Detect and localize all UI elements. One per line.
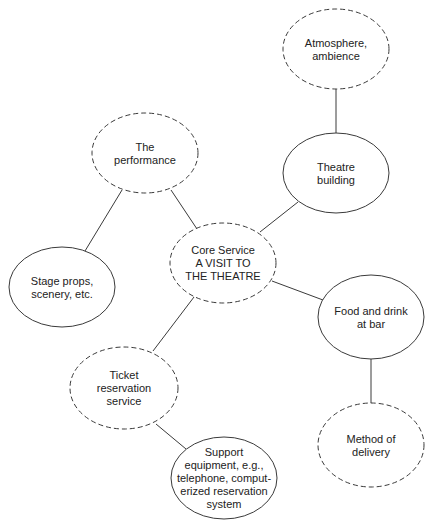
node-support: Supportequipment, e.g.,telephone, comput… [171, 437, 277, 519]
node-label-line: telephone, comput- [177, 472, 272, 484]
node-label-line: THE THEATRE [185, 270, 260, 282]
node-label-line: Method of [347, 433, 397, 445]
node-label-line: performance [114, 154, 176, 166]
node-label-line: reservation [97, 382, 151, 394]
node-method: Method ofdelivery [318, 403, 424, 487]
node-label-line: Ticket [110, 369, 139, 381]
node-label-line: equipment, e.g., [185, 459, 264, 471]
node-ticket: Ticketreservationservice [70, 347, 178, 429]
node-label-line: delivery [352, 446, 390, 458]
edge-performance-to-core [171, 190, 197, 229]
node-atmosphere: Atmosphere,ambience [283, 9, 389, 89]
node-label-line: Theatre [317, 161, 355, 173]
node-label-line: erized reservation [180, 485, 267, 497]
nodes: Atmosphere,ambienceTheatrebuildingTheper… [9, 9, 424, 519]
node-label-line: The [136, 141, 155, 153]
node-label-line: service [107, 395, 142, 407]
node-label-line: Core Service [191, 244, 255, 256]
node-stage-props: Stage props,scenery, etc. [9, 247, 115, 327]
node-label-line: system [207, 498, 242, 510]
edge-theatre-building-to-core [260, 202, 298, 232]
edge-ticket-to-support [156, 424, 186, 449]
node-label-line: A VISIT TO [195, 257, 250, 269]
node-label-line: building [317, 174, 355, 186]
node-label-line: scenery, etc. [31, 288, 93, 300]
node-performance: Theperformance [92, 113, 198, 193]
node-label-line: ambience [312, 50, 360, 62]
node-theatre-building: Theatrebuilding [283, 133, 389, 213]
edge-core-to-food-drink [272, 281, 323, 300]
edge-core-to-ticket [153, 297, 194, 351]
node-label-line: Atmosphere, [305, 37, 367, 49]
edge-performance-to-stage-props [85, 190, 122, 251]
node-label-line: Stage props, [31, 275, 93, 287]
node-label-line: Food and drink [334, 305, 408, 317]
node-label-line: Support [205, 446, 244, 458]
service-diagram: Atmosphere,ambienceTheatrebuildingTheper… [0, 0, 433, 527]
node-food-drink: Food and drinkat bar [318, 275, 424, 359]
node-core: Core ServiceA VISIT TOTHE THEATRE [170, 223, 276, 303]
node-label-line: at bar [357, 318, 385, 330]
